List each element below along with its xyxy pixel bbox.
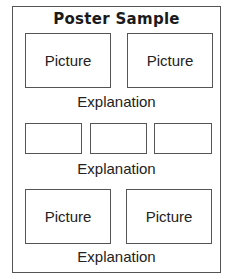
picture-box-small [25,123,82,154]
explanation-text: Explanation [13,93,220,110]
picture-box: Picture [126,189,212,244]
picture-box: Picture [127,33,213,88]
poster-frame: Poster Sample Picture Picture Explanatio… [12,6,221,273]
picture-box: Picture [25,33,111,88]
picture-box-small [154,123,212,154]
picture-box-small [90,123,147,154]
explanation-text: Explanation [13,248,220,265]
explanation-text: Explanation [13,160,220,177]
picture-box: Picture [25,189,111,244]
poster-title: Poster Sample [13,10,220,28]
